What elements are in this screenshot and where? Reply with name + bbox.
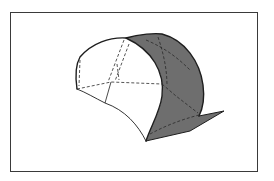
curved-shell-diagram	[0, 0, 274, 181]
